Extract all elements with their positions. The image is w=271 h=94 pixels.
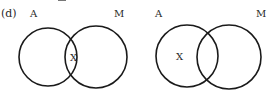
option-label: (d) [1, 7, 17, 20]
set-a-circle [156, 25, 218, 87]
venn-diagram-1: A M X [19, 8, 127, 88]
venn-figure: (d) A M X A M X [0, 0, 271, 94]
set-m-circle [197, 25, 261, 89]
x-marker: X [176, 51, 184, 62]
x-marker: X [70, 52, 78, 63]
set-m-label: M [256, 8, 266, 19]
set-m-label: M [114, 8, 124, 19]
set-a-label: A [29, 8, 38, 19]
venn-diagram-2: A M X [154, 8, 266, 89]
set-a-label: A [154, 8, 163, 19]
set-a-circle [19, 28, 77, 86]
